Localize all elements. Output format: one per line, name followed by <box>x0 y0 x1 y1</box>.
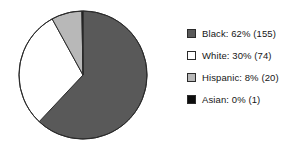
pie-chart-figure: Black: 62% (155) White: 30% (74) Hispani… <box>0 0 300 149</box>
chart-legend: Black: 62% (155) White: 30% (74) Hispani… <box>187 27 299 106</box>
legend-label-white: White: 30% (74) <box>202 50 272 61</box>
legend-swatch-hispanic <box>187 73 196 82</box>
legend-swatch-black <box>187 29 196 38</box>
legend-swatch-white <box>187 51 196 60</box>
legend-item-hispanic[interactable]: Hispanic: 8% (20) <box>187 71 299 84</box>
legend-swatch-asian <box>187 95 196 104</box>
legend-item-black[interactable]: Black: 62% (155) <box>187 27 299 40</box>
pie-slice-group <box>19 11 147 139</box>
legend-label-hispanic: Hispanic: 8% (20) <box>202 72 279 83</box>
legend-label-asian: Asian: 0% (1) <box>202 94 260 105</box>
pie-chart-graphic <box>18 10 148 140</box>
pie-svg <box>18 10 148 140</box>
legend-item-white[interactable]: White: 30% (74) <box>187 49 299 62</box>
legend-item-asian[interactable]: Asian: 0% (1) <box>187 93 299 106</box>
legend-label-black: Black: 62% (155) <box>202 28 276 39</box>
